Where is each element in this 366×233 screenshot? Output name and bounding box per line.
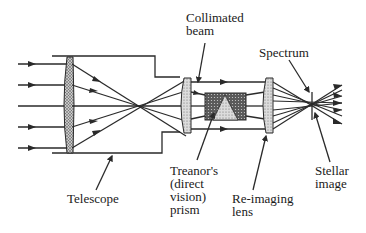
telescope-label: Telescope (67, 192, 119, 205)
spectrum-label: Spectrum (259, 46, 309, 59)
treanor-prism-icon (205, 93, 246, 120)
reimaging-lens-label: Re-imaging lens (232, 192, 293, 218)
incoming-rays (18, 64, 67, 148)
collimator-lens-icon (181, 78, 191, 133)
objective-lens-icon (64, 57, 74, 153)
stellar-image-label: Stellar image (315, 164, 349, 190)
collimated-beam-label: Collimated beam (186, 11, 244, 37)
reimaging-lens-icon (263, 78, 273, 133)
treanor-prism-label: Treanor's (direct vision) prism (170, 164, 218, 216)
